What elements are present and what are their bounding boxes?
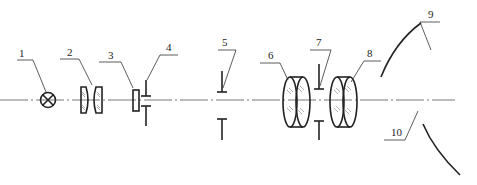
component-8-lens: 8: [330, 47, 381, 127]
lens-icon: [283, 77, 297, 127]
label-2: 2: [67, 46, 73, 58]
optical-diagram: 1 2 3 4 5: [0, 0, 477, 185]
mirror-icon: [381, 23, 421, 77]
component-2-lens-pair: 2: [60, 46, 102, 113]
label-5: 5: [222, 36, 228, 48]
component-9-mirror-upper: 9: [381, 8, 440, 77]
filter-icon: [133, 90, 139, 111]
label-3: 3: [108, 49, 114, 61]
mirror-icon: [423, 124, 460, 175]
component-1-lamp: 1: [17, 47, 56, 108]
component-7-stop: 7: [310, 36, 331, 140]
label-7: 7: [316, 36, 322, 48]
label-10: 10: [391, 126, 403, 138]
component-10-mirror-lower: 10: [384, 111, 460, 175]
label-9: 9: [428, 8, 434, 20]
component-6-lens: 6: [260, 49, 310, 127]
label-1: 1: [19, 47, 25, 59]
label-8: 8: [367, 47, 373, 59]
component-5-stop: 5: [217, 36, 236, 140]
component-4-aperture: 4: [141, 41, 178, 126]
label-4: 4: [166, 41, 172, 53]
component-3-filter: 3: [99, 49, 139, 111]
label-6: 6: [268, 49, 274, 61]
lens-icon: [330, 77, 344, 127]
